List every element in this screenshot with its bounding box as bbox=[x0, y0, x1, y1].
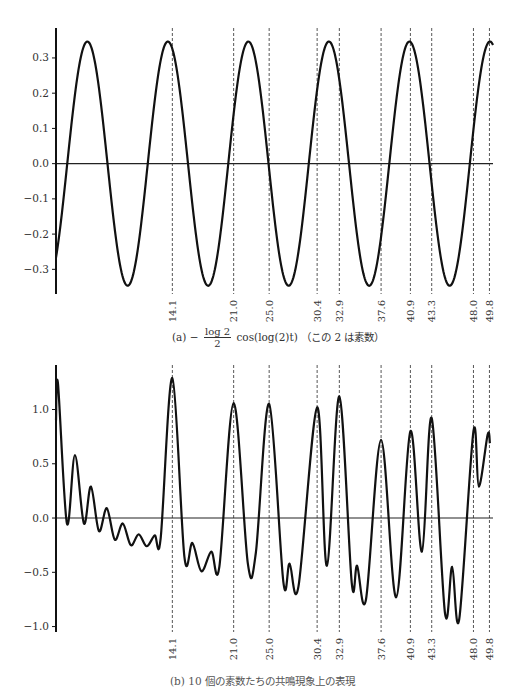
x-tick-label: 40.9 bbox=[405, 300, 416, 322]
x-tick-label: 43.3 bbox=[426, 300, 437, 322]
caption-a-fraction: log 2 2 bbox=[204, 326, 231, 349]
x-tick-label: 37.6 bbox=[376, 638, 387, 660]
y-tick-label: −0.1 bbox=[24, 192, 50, 204]
x-tick-label: 37.6 bbox=[376, 300, 387, 322]
y-tick-label: 1.0 bbox=[32, 403, 49, 415]
x-tick-label: 49.8 bbox=[484, 638, 495, 660]
x-tick-label: 25.0 bbox=[264, 638, 275, 660]
caption-a-minus: − bbox=[190, 331, 199, 343]
x-tick-label: 14.1 bbox=[167, 638, 178, 660]
y-tick-label: −0.3 bbox=[24, 263, 50, 275]
y-tick-label: 0.0 bbox=[32, 512, 49, 524]
x-tick-label: 40.9 bbox=[405, 638, 416, 660]
x-tick-label: 43.3 bbox=[426, 638, 437, 660]
data-curve bbox=[56, 378, 490, 623]
caption-a-denominator: 2 bbox=[204, 338, 231, 349]
x-tick-label: 48.0 bbox=[468, 638, 479, 660]
x-tick-label: 30.4 bbox=[312, 300, 323, 322]
x-tick-label: 21.0 bbox=[228, 300, 239, 322]
x-tick-label: 25.0 bbox=[264, 300, 275, 322]
x-tick-label: 49.8 bbox=[484, 300, 495, 322]
y-tick-label: 0.1 bbox=[32, 122, 49, 134]
x-tick-label: 32.9 bbox=[334, 638, 345, 660]
caption-a: (a) − log 2 2 cos(log(2)t) （この 2 は素数） bbox=[172, 326, 384, 349]
y-tick-label: −0.5 bbox=[24, 566, 50, 578]
caption-a-numerator: log 2 bbox=[204, 326, 231, 338]
y-tick-label: 0.3 bbox=[32, 51, 49, 63]
x-tick-label: 21.0 bbox=[228, 638, 239, 660]
chart-b: 14.121.025.030.432.937.640.943.348.049.8… bbox=[24, 365, 495, 660]
y-tick-label: 0.0 bbox=[32, 157, 49, 169]
chart-a: 14.121.025.030.432.937.640.943.348.049.8… bbox=[24, 28, 495, 322]
x-tick-label: 30.4 bbox=[312, 638, 323, 660]
x-tick-label: 32.9 bbox=[334, 300, 345, 322]
caption-b: (b) 10 個の素数たちの共鳴現象上の表現 bbox=[170, 673, 355, 688]
caption-a-note: （この 2 は素数） bbox=[301, 331, 384, 343]
y-tick-label: 0.5 bbox=[32, 457, 49, 469]
y-tick-label: −1.0 bbox=[24, 620, 50, 632]
caption-a-label: (a) bbox=[172, 331, 186, 343]
y-tick-label: 0.2 bbox=[32, 87, 49, 99]
x-tick-label: 48.0 bbox=[468, 300, 479, 322]
x-tick-label: 14.1 bbox=[167, 300, 178, 322]
y-tick-label: −0.2 bbox=[24, 228, 50, 240]
caption-a-expr: cos(log(2)t) bbox=[236, 331, 297, 343]
